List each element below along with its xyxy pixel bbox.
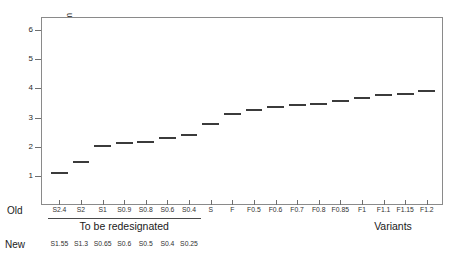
old-tick-label: F0.8 [312,206,326,213]
x-axis-tick [319,200,320,205]
y-axis-tick-label: 6 [11,25,33,34]
chart-container: Relative position, cm 123456 Old New S2.… [0,0,462,258]
x-axis-tick [103,200,104,205]
old-tick-label: F1 [358,206,366,213]
old-tick-label: S2.4 [52,206,66,213]
new-tick-label: S0.5 [139,240,153,247]
old-tick-label: S2 [77,206,85,213]
x-axis-tick [232,200,233,205]
old-tick-label: F1.1 [377,206,391,213]
data-mark [267,106,284,108]
y-axis-tick [35,59,41,60]
data-mark [181,134,198,136]
new-tick-label: S0.65 [94,240,112,247]
old-tick-label: F0.6 [269,206,283,213]
data-mark [73,161,90,163]
data-mark [224,113,241,115]
y-axis-tick [35,147,41,148]
x-axis-tick [384,200,385,205]
x-axis-tick [167,200,168,205]
x-axis-tick [405,200,406,205]
y-axis-tick-label: 3 [11,113,33,122]
old-tick-label: F0.5 [247,206,261,213]
old-tick-label: F0.7 [290,206,304,213]
data-mark [397,93,414,95]
data-mark [310,103,327,105]
data-mark [116,142,133,144]
old-tick-label: S0.4 [182,206,196,213]
data-mark [332,100,349,102]
old-tick-label: F0.85 [332,206,349,213]
data-mark [94,145,111,147]
y-axis-tick-label: 1 [11,171,33,180]
data-mark [137,141,154,143]
plot-frame [41,17,443,205]
y-axis-tick-label: 5 [11,54,33,63]
x-axis-tick [362,200,363,205]
variants-axis-label: Variants [343,220,443,232]
new-row-label: New [5,239,25,250]
data-mark [375,94,392,96]
x-axis-tick [427,200,428,205]
old-tick-label: S0.9 [117,206,131,213]
data-mark [289,104,306,106]
data-mark [202,123,219,125]
data-mark [354,97,371,99]
new-tick-label: S0.4 [160,240,174,247]
redesignated-underline [48,218,202,219]
data-mark [418,90,435,92]
x-axis-tick [340,200,341,205]
old-tick-label: S0.8 [139,206,153,213]
y-axis-tick [35,30,41,31]
x-axis-tick [146,200,147,205]
old-tick-label: F1.2 [420,206,434,213]
y-axis-tick [35,176,41,177]
x-axis-tick [211,200,212,205]
data-mark [159,137,176,139]
x-axis-tick [189,200,190,205]
x-axis-tick [276,200,277,205]
x-axis-tick [124,200,125,205]
data-mark [246,109,263,111]
redesignated-note: To be redesignated [48,220,202,232]
old-tick-label: F [230,206,234,213]
y-axis-tick-label: 4 [11,83,33,92]
data-mark [51,172,68,174]
new-tick-label: S0.25 [180,240,198,247]
old-tick-label: S1 [98,206,106,213]
old-tick-label: F1.15 [396,206,413,213]
y-axis-tick [35,88,41,89]
x-axis-tick [254,200,255,205]
y-axis-tick [35,118,41,119]
new-tick-label: S0.6 [117,240,131,247]
old-tick-label: S0.6 [160,206,174,213]
x-axis-tick [81,200,82,205]
y-axis-tick-label: 2 [11,142,33,151]
new-tick-label: S1.3 [74,240,88,247]
x-axis-tick [59,200,60,205]
x-axis-tick [297,200,298,205]
old-row-label: Old [7,205,23,216]
new-tick-label: S1.55 [51,240,69,247]
old-tick-label: S [208,206,213,213]
